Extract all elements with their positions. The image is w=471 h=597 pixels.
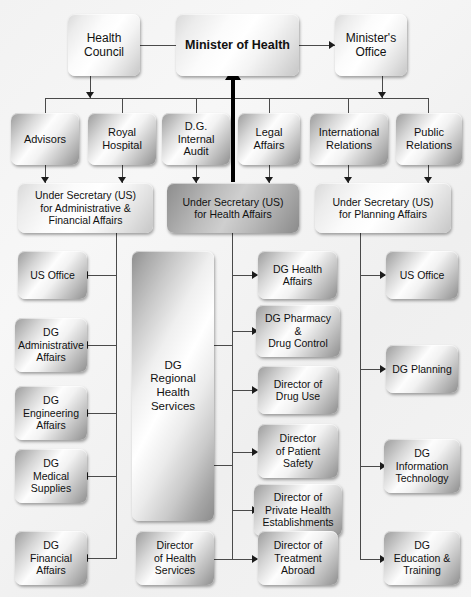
drop-internal-audit [196, 98, 197, 113]
node-legal-affairs[interactable]: Legal Affairs [238, 113, 300, 165]
bus-admin-column [116, 233, 117, 559]
node-us-planning-affairs[interactable]: Under Secretary (US) for Planning Affair… [315, 183, 451, 233]
node-planning-us-office[interactable]: US Office [386, 251, 458, 299]
node-advisors[interactable]: Advisors [11, 113, 79, 165]
node-dg-engineering-affairs[interactable]: DG Engineering Affairs [15, 386, 87, 440]
branch-admin-administrative [88, 345, 117, 346]
node-director-of-health-services[interactable]: Director of Health Services [136, 531, 214, 585]
node-us-health-affairs[interactable]: Under Secretary (US) for Health Affairs [167, 183, 299, 233]
drop-international-relations [348, 98, 349, 113]
node-director-of-treatment-abroad-label: Director of Treatment Abroad [274, 539, 322, 576]
node-advisors-label: Advisors [24, 133, 66, 146]
arrowhead-ministers-office-down [378, 92, 386, 98]
node-legal-affairs-label: Legal Affairs [254, 126, 285, 152]
node-director-of-drug-use-label: Director of Drug Use [274, 378, 322, 403]
node-dg-regional-health-services[interactable]: DG Regional Health Services [132, 251, 214, 521]
node-us-planning-affairs-label: Under Secretary (US) for Planning Affair… [333, 196, 434, 221]
node-dg-education-training[interactable]: DG Education & Training [384, 531, 460, 585]
node-dg-medical-supplies[interactable]: DG Medical Supplies [15, 449, 87, 503]
node-dg-internal-audit[interactable]: D.G. Internal Audit [162, 113, 230, 165]
node-health-council[interactable]: Health Council [68, 14, 140, 76]
branch-admin-engineering [88, 413, 117, 414]
branch-regional-health-top [214, 345, 233, 346]
org-chart-canvas: Health Council Minister of Health Minist… [0, 0, 471, 597]
node-director-of-treatment-abroad[interactable]: Director of Treatment Abroad [258, 531, 338, 585]
drop-legal-affairs [269, 98, 270, 113]
node-planning-us-office-label: US Office [400, 269, 445, 281]
node-director-of-patient-safety-label: Director of Patient Safety [276, 432, 320, 469]
node-dg-education-training-label: DG Education & Training [394, 539, 451, 576]
node-director-of-private-health-establishments-label: Director of Private Health Establishment… [262, 491, 333, 528]
node-dg-planning[interactable]: DG Planning [386, 345, 458, 393]
node-dg-administrative-affairs[interactable]: DG Administrative Affairs [15, 318, 87, 372]
bus-level2 [45, 98, 428, 99]
node-royal-hospital-label: Royal Hospital [102, 126, 142, 152]
node-director-of-health-services-label: Director of Health Services [154, 539, 196, 576]
connector-minister-to-health-council [140, 45, 176, 46]
node-international-relations-label: International Relations [319, 126, 380, 152]
node-dg-pharmacy-drug-control[interactable]: DG Pharmacy & Drug Control [256, 305, 340, 357]
node-dg-planning-label: DG Planning [392, 363, 452, 375]
node-ministers-office[interactable]: Minister's Office [335, 14, 407, 76]
node-us-administrative-financial-affairs[interactable]: Under Secretary (US) for Administrative … [18, 183, 153, 233]
node-public-relations-label: Public Relations [406, 126, 452, 152]
node-dg-financial-affairs-label: DG Financial Affairs [30, 539, 72, 576]
node-royal-hospital[interactable]: Royal Hospital [88, 113, 156, 165]
node-public-relations[interactable]: Public Relations [396, 113, 462, 165]
node-admin-us-office[interactable]: US Office [18, 251, 87, 299]
node-minister-of-health[interactable]: Minister of Health [176, 14, 299, 76]
branch-regional-health-bottom [214, 465, 233, 466]
branch-director-health-services [214, 559, 233, 560]
node-dg-internal-audit-label: D.G. Internal Audit [178, 120, 215, 159]
node-dg-health-affairs-label: DG Health Affairs [273, 263, 322, 288]
bus-planning-column [360, 233, 361, 559]
node-us-health-affairs-label: Under Secretary (US) for Health Affairs [183, 196, 284, 221]
node-dg-medical-supplies-label: DG Medical Supplies [31, 457, 71, 494]
node-minister-of-health-label: Minister of Health [185, 38, 290, 53]
arrowhead-health-council-down [86, 92, 94, 98]
node-dg-pharmacy-drug-control-label: DG Pharmacy & Drug Control [265, 312, 331, 349]
node-health-council-label: Health Council [84, 31, 124, 59]
drop-public-relations [428, 98, 429, 113]
node-director-of-drug-use[interactable]: Director of Drug Use [258, 366, 338, 414]
branch-admin-us-office [88, 275, 117, 276]
node-us-administrative-financial-affairs-label: Under Secretary (US) for Administrative … [35, 189, 136, 226]
node-director-of-patient-safety[interactable]: Director of Patient Safety [258, 424, 338, 478]
node-dg-financial-affairs[interactable]: DG Financial Affairs [15, 531, 87, 585]
drop-royal-hospital [122, 98, 123, 113]
node-dg-information-technology-label: DG Information Technology [395, 447, 448, 484]
emphasis-line-health-affairs-to-minister [231, 78, 235, 182]
node-dg-engineering-affairs-label: DG Engineering Affairs [23, 394, 79, 431]
branch-admin-financial [88, 558, 117, 559]
branch-admin-medical-supplies [88, 476, 117, 477]
node-director-of-private-health-establishments[interactable]: Director of Private Health Establishment… [254, 484, 342, 536]
node-ministers-office-label: Minister's Office [346, 31, 396, 59]
drop-advisors [45, 98, 46, 113]
node-international-relations[interactable]: International Relations [310, 113, 388, 165]
node-dg-administrative-affairs-label: DG Administrative Affairs [18, 326, 84, 363]
node-admin-us-office-label: US Office [30, 269, 75, 281]
node-dg-information-technology[interactable]: DG Information Technology [384, 439, 460, 493]
node-dg-health-affairs[interactable]: DG Health Affairs [258, 251, 337, 299]
node-dg-regional-health-services-label: DG Regional Health Services [150, 359, 195, 413]
